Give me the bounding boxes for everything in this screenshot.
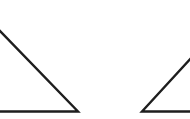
- left-triangle: [0, 29, 78, 112]
- diagram-canvas: [0, 0, 190, 119]
- right-triangle: [142, 57, 190, 112]
- diagram-svg: [0, 0, 190, 119]
